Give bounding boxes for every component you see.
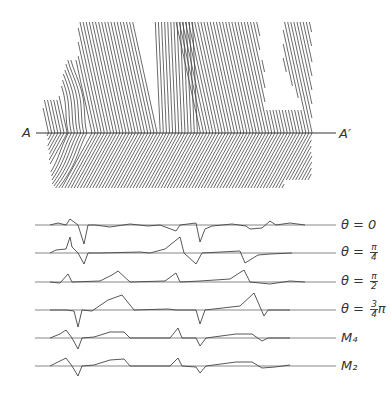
trace-label-theta-pi-4: θ = π4 xyxy=(341,243,378,262)
hatch-stroke xyxy=(43,108,48,136)
trace-label-theta-0: θ = 0 xyxy=(341,218,376,231)
fraction: π4 xyxy=(370,243,377,262)
fraction: π2 xyxy=(370,272,377,291)
section-label-a: A xyxy=(22,126,31,139)
trace-signal-theta-0 xyxy=(50,219,305,244)
section-label-a-prime: A′ xyxy=(339,127,351,140)
trace-signal-theta-pi-4 xyxy=(50,237,292,264)
trace-signal-m2 xyxy=(50,358,290,376)
figure-canvas xyxy=(0,0,391,395)
trace-label-theta-3pi-4: θ = 34π xyxy=(341,300,386,319)
trace-label-m4: M₄ xyxy=(341,331,357,344)
trace-label-theta-pi-2: θ = π2 xyxy=(341,272,378,291)
hatch-stroke xyxy=(296,22,312,180)
trace-label-m2: M₂ xyxy=(341,359,357,372)
hatch-stroke xyxy=(302,22,312,180)
fraction: 34 xyxy=(370,300,378,319)
trace-signal-m4 xyxy=(50,328,290,349)
hatched-texture-region xyxy=(43,22,312,188)
trace-group xyxy=(35,219,336,376)
